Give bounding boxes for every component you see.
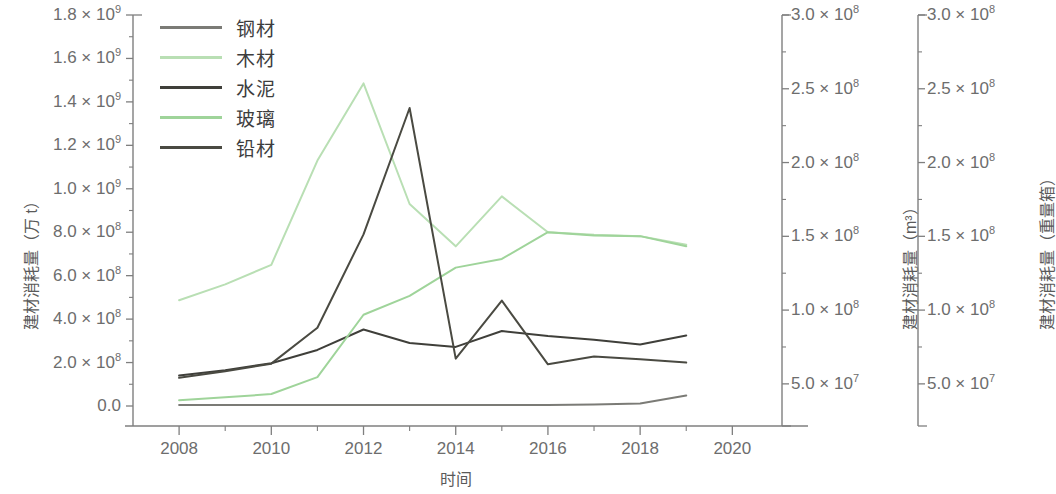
axis-lines: [125, 15, 808, 435]
left-axis-tick-label: 2.0 × 108: [0, 354, 121, 371]
right-axis-2-tick-label: 1.0 × 108: [927, 301, 995, 318]
left-axis-tick-label: 1.8 × 109: [0, 6, 121, 23]
left-axis-tick-label: 1.2 × 109: [0, 136, 121, 153]
right-axis-2-tick-label: 3.0 × 108: [927, 6, 995, 23]
x-axis-tick-label: 2012: [324, 440, 404, 457]
x-axis-tick-label: 2014: [416, 440, 496, 457]
x-axis-tick-label: 2020: [692, 440, 772, 457]
right-axis-2-tick-label: 2.0 × 108: [927, 154, 995, 171]
right-axis-1-tick-label: 2.0 × 108: [791, 154, 859, 171]
x-axis-tick-label: 2008: [139, 440, 219, 457]
right-axis-1-tick-label: 1.0 × 108: [791, 301, 859, 318]
left-axis-tick-label: 6.0 × 108: [0, 267, 121, 284]
data-line-木材: [179, 83, 686, 300]
data-line-铅材: [179, 108, 686, 378]
left-axis-tick-label: 1.4 × 109: [0, 93, 121, 110]
x-axis-tick-label: 2018: [600, 440, 680, 457]
right-axis-2-axis: [918, 15, 927, 426]
left-axis-tick-label: 0.0: [0, 397, 121, 414]
data-line-钢材: [179, 396, 686, 405]
left-axis-tick-label: 1.6 × 109: [0, 49, 121, 66]
data-series-group: [179, 83, 686, 404]
right-axis-1-tick-label: 5.0 × 107: [791, 375, 859, 392]
right-axis-1-tick-label: 3.0 × 108: [791, 6, 859, 23]
right-axis-1-tick-label: 2.5 × 108: [791, 80, 859, 97]
x-axis-tick-label: 2016: [508, 440, 588, 457]
right-axis-1-tick-label: 1.5 × 108: [791, 227, 859, 244]
right-axis-1-axis: [782, 15, 791, 426]
x-axis-tick-label: 2010: [231, 440, 311, 457]
right-axis-2-tick-label: 1.5 × 108: [927, 227, 995, 244]
left-axis-tick-label: 4.0 × 108: [0, 310, 121, 327]
left-axis-tick-label: 8.0 × 108: [0, 223, 121, 240]
right-axis-2-tick-label: 2.5 × 108: [927, 80, 995, 97]
data-line-水泥: [179, 330, 686, 376]
left-axis-tick-label: 1.0 × 109: [0, 180, 121, 197]
data-line-玻璃: [179, 232, 686, 400]
right-axis-2-tick-label: 5.0 × 107: [927, 375, 995, 392]
